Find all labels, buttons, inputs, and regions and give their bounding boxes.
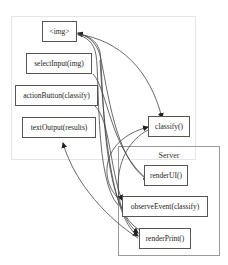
- node-img: <img>: [42, 21, 77, 42]
- node-observe-event: observeEvent(classify): [122, 196, 208, 217]
- node-action-button: actionButton(classify): [15, 85, 98, 106]
- node-render-print: renderPrint(): [139, 228, 191, 249]
- node-text-output: textOutput(results): [22, 117, 96, 138]
- node-classify: classify(): [148, 116, 190, 137]
- node-render-ui: renderUI(): [144, 165, 188, 186]
- node-select-input: selectInput(img): [26, 53, 92, 74]
- server-cluster-label: Server: [119, 151, 219, 160]
